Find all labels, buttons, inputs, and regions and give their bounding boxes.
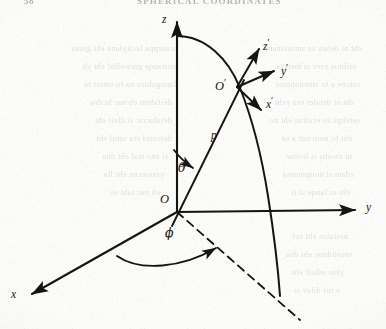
axis-label-x: x [11,289,16,301]
axis-label-z-prime: z′ [263,39,269,52]
axis-label-y-prime: y′ [281,64,288,77]
axis-label-y: y [366,202,371,214]
spherical-coordinates-figure [0,0,386,329]
point-label-o-prime: O′ [215,78,226,93]
angle-label-phi: ϕ [165,227,174,240]
azimuthal-angle-arc [117,248,216,266]
radial-line-p [172,80,244,226]
x-prime-axis-line [237,87,261,110]
segment-label-p: p [211,130,217,142]
projection-line [177,212,300,320]
point-label-origin: O [160,193,169,206]
figure-canvas [0,0,386,329]
axis-label-z: z [162,14,166,26]
axis-label-x-prime: x′ [266,97,273,110]
x-axis-line [32,212,177,294]
scanned-book-page: 58 SPHERICAL COORDINATES hcaorppa lacity… [0,0,386,329]
angle-label-theta: θ [178,162,186,175]
y-axis-line [177,210,355,212]
